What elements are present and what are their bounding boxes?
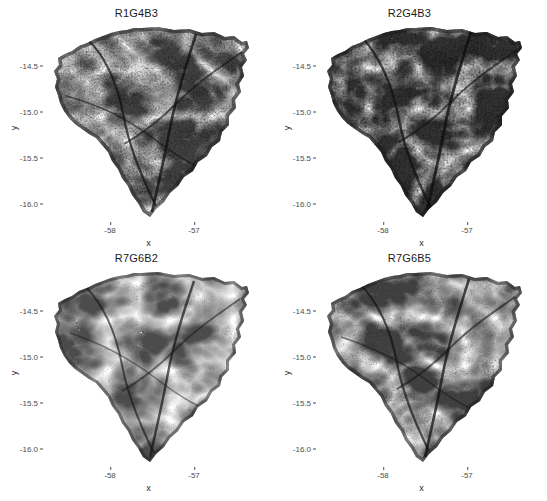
y-tick-mark <box>313 204 316 205</box>
raster-plot-area <box>319 26 524 221</box>
panel-title: R2G4B3 <box>273 7 546 19</box>
y-axis-title: y <box>9 126 19 131</box>
raster-plot-area <box>319 271 524 466</box>
y-tick-mark <box>40 357 43 358</box>
facet-figure: R1G4B3 <box>0 0 547 501</box>
panel-r2g4b3: R2G4B3 <box>273 0 546 250</box>
y-ticklabel: -15.0 <box>20 108 38 117</box>
panel-title: R7G6B2 <box>0 252 273 264</box>
y-axis-ticklabels: -14.5 -15.0 -15.5 -16.0 <box>0 271 38 466</box>
y-ticklabel: -15.5 <box>293 399 311 408</box>
y-tick-mark <box>313 66 316 67</box>
y-axis-ticklabels: -14.5 -15.0 -15.5 -16.0 <box>0 26 38 221</box>
x-ticklabel: -58 <box>104 226 116 235</box>
panel-r7g6b5: R7G6B5 <box>273 245 546 495</box>
raster-image <box>46 271 251 466</box>
y-tick-mark <box>313 112 316 113</box>
panel-title: R1G4B3 <box>0 7 273 19</box>
y-tick-mark <box>40 311 43 312</box>
y-tick-mark <box>40 449 43 450</box>
y-ticklabel: -15.0 <box>293 108 311 117</box>
y-ticklabel: -14.5 <box>293 62 311 71</box>
x-ticklabel: -58 <box>377 471 389 480</box>
x-ticklabel: -58 <box>377 226 389 235</box>
y-ticklabel: -14.5 <box>293 307 311 316</box>
panel-r1g4b3: R1G4B3 <box>0 0 273 250</box>
y-tick-mark <box>313 158 316 159</box>
y-axis-title: y <box>9 371 19 376</box>
raster-plot-area <box>46 271 251 466</box>
x-ticklabel: -58 <box>104 471 116 480</box>
y-tick-mark <box>40 403 43 404</box>
panel-r7g6b2: R7G6B2 <box>0 245 273 495</box>
y-tick-mark <box>40 158 43 159</box>
y-ticklabel: -15.0 <box>293 353 311 362</box>
y-tick-mark <box>40 112 43 113</box>
y-tick-mark <box>40 66 43 67</box>
raster-image <box>319 26 524 221</box>
y-axis-title: y <box>282 126 292 131</box>
y-ticklabel: -14.5 <box>20 307 38 316</box>
y-axis-ticklabels: -14.5 -15.0 -15.5 -16.0 <box>273 271 311 466</box>
x-axis-title: x <box>46 483 251 493</box>
y-tick-mark <box>40 204 43 205</box>
x-ticklabel: -57 <box>461 226 473 235</box>
x-ticklabel: -57 <box>461 471 473 480</box>
y-tick-mark <box>313 311 316 312</box>
y-ticklabel: -16.0 <box>293 445 311 454</box>
panel-title: R7G6B5 <box>273 252 546 264</box>
x-ticklabel: -57 <box>188 226 200 235</box>
y-ticklabel: -15.5 <box>20 154 38 163</box>
y-ticklabel: -16.0 <box>20 200 38 209</box>
x-axis-title: x <box>319 483 524 493</box>
y-ticklabel: -16.0 <box>293 200 311 209</box>
y-ticklabel: -15.0 <box>20 353 38 362</box>
raster-image <box>319 271 524 466</box>
y-ticklabel: -14.5 <box>20 62 38 71</box>
y-axis-ticklabels: -14.5 -15.0 -15.5 -16.0 <box>273 26 311 221</box>
raster-image <box>46 26 251 221</box>
y-tick-mark <box>313 403 316 404</box>
y-ticklabel: -15.5 <box>293 154 311 163</box>
y-ticklabel: -15.5 <box>20 399 38 408</box>
y-tick-mark <box>313 449 316 450</box>
y-ticklabel: -16.0 <box>20 445 38 454</box>
y-tick-mark <box>313 357 316 358</box>
y-axis-title: y <box>282 371 292 376</box>
raster-plot-area <box>46 26 251 221</box>
x-ticklabel: -57 <box>188 471 200 480</box>
